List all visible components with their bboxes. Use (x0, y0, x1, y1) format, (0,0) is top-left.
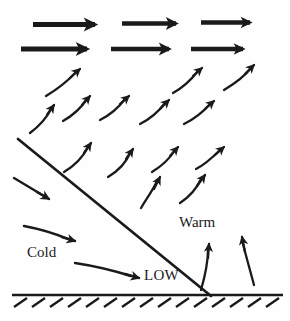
curved-arrow-w12-head (215, 147, 224, 155)
curved-arrow-w13 (141, 181, 157, 208)
ground-hatch-mark (122, 298, 135, 307)
curved-arrow-w6-head (120, 96, 129, 104)
ground-hatch-mark (32, 298, 45, 307)
ground-hatch-mark (86, 298, 99, 307)
curved-arrow-w7-head (160, 100, 169, 109)
ground-hatch-mark (14, 298, 27, 307)
curved-arrow-w3-head (245, 65, 254, 74)
label-cold: Cold (27, 245, 56, 260)
curved-arrow-w11-head (170, 147, 178, 156)
ground-hatch-mark (104, 298, 117, 307)
ground-hatch-mark (230, 298, 243, 307)
curved-arrow-w15 (201, 250, 208, 290)
curved-arrow-w14-head (197, 175, 205, 186)
frontal-cyclone-diagram: Cold Warm LOW (0, 0, 290, 321)
ground-hatch-mark (50, 298, 63, 307)
ground-hatch-group (14, 298, 279, 307)
curved-arrow-w9-head (84, 143, 91, 153)
ground-hatch-mark (194, 298, 207, 307)
straight-arrow-group-row1 (33, 23, 250, 25)
curved-arrow-w10-head (126, 149, 133, 159)
ground-hatch-mark (248, 298, 261, 307)
label-low: LOW (144, 268, 179, 283)
ground-hatch-mark (212, 298, 225, 307)
cold-sector-arrow-group (14, 178, 139, 278)
ground-hatch-mark (68, 298, 81, 307)
ground-hatch-mark (176, 298, 189, 307)
curved-arrow-c3 (75, 263, 131, 276)
ground-hatch-mark (158, 298, 171, 307)
curved-arrow-w1-head (70, 69, 80, 78)
label-warm: Warm (179, 215, 215, 230)
curved-arrow-w4-head (47, 105, 54, 115)
curved-arrow-w14 (180, 179, 201, 203)
ground-hatch-mark (266, 298, 279, 307)
curved-arrow-w16-head (242, 237, 245, 252)
curved-arrow-c1-head (37, 192, 49, 199)
curved-arrow-w5-head (82, 96, 90, 105)
curved-arrow-w2-head (193, 68, 202, 76)
curved-arrow-w8-head (205, 101, 214, 109)
ground-hatch-mark (140, 298, 153, 307)
curved-arrow-c2-head (62, 237, 75, 241)
curved-arrow-w15-head (208, 244, 209, 258)
